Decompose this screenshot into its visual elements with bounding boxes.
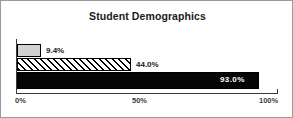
x-tick-label-0: 0% — [15, 97, 26, 105]
bar-series-1[interactable] — [17, 44, 41, 57]
chart-container: Student Demographics 9.4% 44.0% 93.0% 0%… — [0, 0, 293, 118]
bar-label-series-2: 44.0% — [136, 61, 159, 69]
bar-series-2[interactable] — [17, 58, 131, 71]
y-axis-line — [16, 39, 17, 93]
plot-area: 9.4% 44.0% 93.0% — [17, 39, 277, 93]
x-tick-label-50: 50% — [132, 97, 147, 105]
chart-title: Student Demographics — [1, 10, 293, 22]
bar-label-series-1: 9.4% — [46, 47, 64, 55]
bar-label-series-3: 93.0% — [220, 76, 245, 84]
x-tick-label-100: 100% — [259, 97, 278, 105]
x-axis-end-tick — [277, 89, 278, 94]
x-axis-line — [16, 93, 278, 94]
